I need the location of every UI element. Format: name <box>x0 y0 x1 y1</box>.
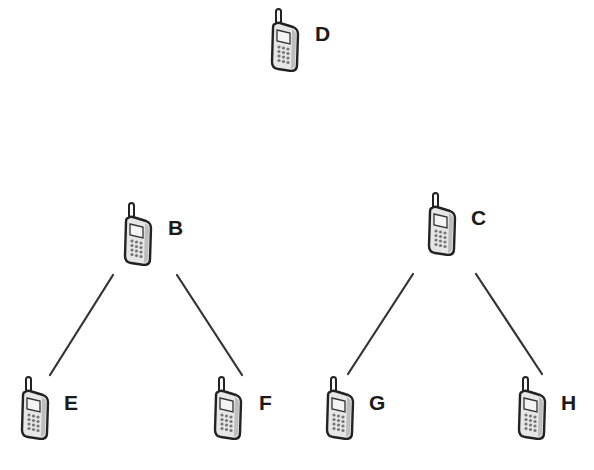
node-label-e: E <box>64 392 78 413</box>
node-b-mobile-phone-icon <box>123 202 153 266</box>
node-label-h: H <box>561 392 576 413</box>
node-g-mobile-phone-icon <box>325 376 355 440</box>
node-d-mobile-phone-icon <box>270 8 300 72</box>
node-label-f: F <box>259 392 272 413</box>
node-h-mobile-phone-icon <box>517 376 547 440</box>
node-label-g: G <box>369 392 385 413</box>
edge-c-h <box>476 274 542 374</box>
node-label-c: C <box>471 207 486 228</box>
edge-b-f <box>177 275 242 375</box>
network-diagram: D B C <box>0 0 594 470</box>
node-c-mobile-phone-icon <box>427 192 457 256</box>
edge-b-e <box>50 275 113 375</box>
node-label-d: D <box>315 23 330 44</box>
node-e-mobile-phone-icon <box>20 376 50 440</box>
edge-c-g <box>348 274 413 374</box>
node-label-b: B <box>168 217 183 238</box>
node-f-mobile-phone-icon <box>213 376 243 440</box>
